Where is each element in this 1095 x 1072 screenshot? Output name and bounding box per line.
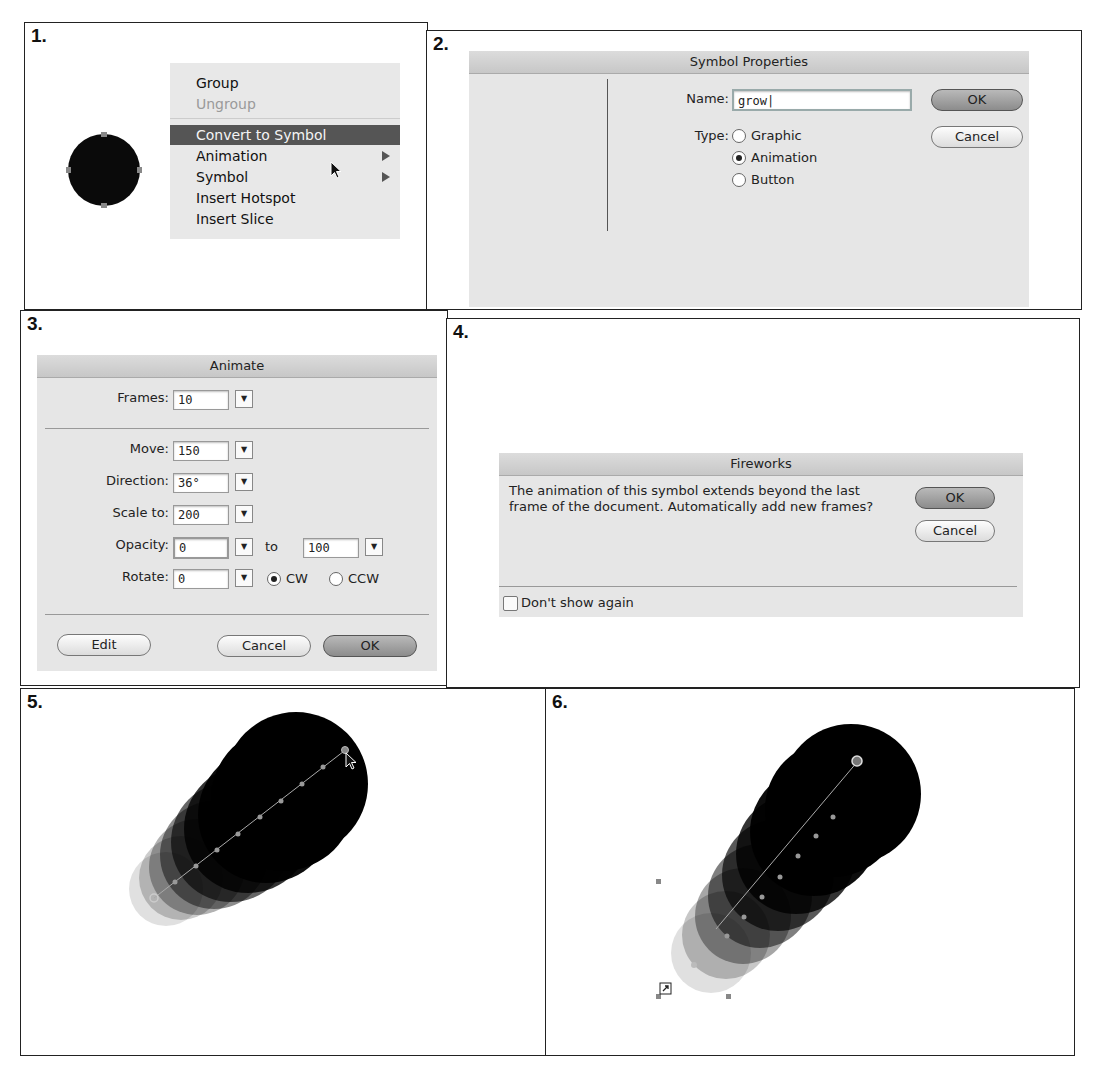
dialog-title: Fireworks: [499, 453, 1023, 476]
menu-item-label: Ungroup: [196, 96, 256, 112]
ok-button[interactable]: OK: [931, 89, 1023, 111]
menu-divider: [170, 118, 400, 119]
scale-to-label: Scale to:: [77, 505, 169, 520]
move-label: Move:: [77, 441, 169, 456]
frames-input[interactable]: 10: [173, 390, 229, 410]
menu-item-group[interactable]: Group: [170, 73, 400, 93]
menu-item-label: Symbol: [196, 169, 248, 185]
frames-dropdown-button[interactable]: ▼: [235, 390, 253, 408]
edit-button[interactable]: Edit: [57, 634, 151, 656]
step-1-panel: 1. Group Ungroup Convert to Symbol Anima…: [24, 22, 428, 310]
submenu-arrow-icon: [382, 172, 390, 182]
context-menu: Group Ungroup Convert to Symbol Animatio…: [170, 63, 400, 239]
step-4-panel: 4. Fireworks The animation of this symbo…: [446, 318, 1080, 688]
step-number: 4.: [453, 321, 469, 343]
type-animation-label: Animation: [751, 150, 817, 165]
direction-label: Direction:: [77, 473, 169, 488]
animation-onion-skin-canvas[interactable]: [546, 689, 1075, 1056]
step-number: 2.: [433, 33, 449, 55]
step-2-panel: 2. Symbol Properties Name: grow| OK Canc…: [426, 30, 1082, 310]
step-3-panel: 3. Animate Frames: 10 ▼ Move: 150 ▼ Dire…: [20, 310, 448, 686]
menu-item-label: Animation: [196, 148, 267, 164]
fireworks-alert-dialog: Fireworks The animation of this symbol e…: [499, 453, 1023, 617]
dialog-title: Animate: [37, 355, 437, 378]
type-label: Type:: [659, 128, 729, 143]
menu-item-ungroup: Ungroup: [170, 94, 400, 114]
input-value: 100: [308, 541, 330, 555]
menu-item-label: Insert Hotspot: [196, 190, 295, 206]
ccw-label: CCW: [348, 571, 379, 586]
cancel-button[interactable]: Cancel: [915, 520, 995, 542]
type-graphic-label: Graphic: [751, 128, 802, 143]
scale-to-input[interactable]: 200: [173, 505, 229, 525]
menu-item-label: Convert to Symbol: [196, 127, 326, 143]
step-6-panel: 6.: [545, 688, 1075, 1056]
input-value: 200: [178, 508, 200, 522]
dont-show-again-checkbox[interactable]: [503, 596, 518, 611]
animate-dialog: Animate Frames: 10 ▼ Move: 150 ▼ Directi…: [37, 355, 437, 671]
mouse-cursor-icon: [345, 752, 359, 772]
cw-label: CW: [286, 571, 308, 586]
submenu-arrow-icon: [382, 151, 390, 161]
cancel-button[interactable]: Cancel: [217, 635, 311, 657]
direction-dropdown-button[interactable]: ▼: [235, 473, 253, 491]
divider: [45, 614, 429, 615]
move-dropdown-button[interactable]: ▼: [235, 441, 253, 459]
cancel-button[interactable]: Cancel: [931, 126, 1023, 148]
symbol-properties-dialog: Symbol Properties Name: grow| OK Cancel …: [469, 51, 1029, 307]
input-value: 10: [178, 393, 192, 407]
divider: [45, 428, 429, 429]
rotate-label: Rotate:: [77, 569, 169, 584]
menu-item-label: Group: [196, 75, 239, 91]
divider: [499, 586, 1017, 587]
mouse-cursor-icon: [330, 161, 344, 181]
preview-divider: [607, 79, 608, 231]
step-number: 3.: [27, 313, 43, 335]
menu-item-label: Insert Slice: [196, 211, 274, 227]
alert-message: The animation of this symbol extends bey…: [509, 483, 889, 515]
ok-button[interactable]: OK: [915, 487, 995, 509]
type-button-radio[interactable]: [732, 173, 746, 187]
step-5-panel: 5.: [20, 688, 546, 1056]
menu-item-insert-hotspot[interactable]: Insert Hotspot: [170, 188, 400, 208]
opacity-from-input[interactable]: 0: [173, 537, 229, 559]
input-value: 150: [178, 444, 200, 458]
dialog-title: Symbol Properties: [469, 51, 1029, 74]
type-button-label: Button: [751, 172, 795, 187]
input-value: grow: [738, 94, 767, 108]
menu-item-insert-slice[interactable]: Insert Slice: [170, 209, 400, 229]
name-label: Name:: [659, 91, 729, 106]
rotate-input[interactable]: 0: [173, 569, 229, 589]
menu-item-animation[interactable]: Animation: [170, 146, 400, 166]
input-value: 0: [178, 572, 185, 586]
opacity-from-dropdown-button[interactable]: ▼: [235, 538, 253, 556]
circle-shape[interactable]: [65, 131, 145, 211]
opacity-to-dropdown-button[interactable]: ▼: [365, 538, 383, 556]
opacity-to-input[interactable]: 100: [303, 538, 359, 558]
ok-button[interactable]: OK: [323, 635, 417, 657]
menu-item-convert-to-symbol[interactable]: Convert to Symbol: [170, 125, 400, 145]
opacity-label: Opacity:: [77, 537, 169, 552]
opacity-to-label: to: [265, 539, 278, 554]
animation-onion-skin-canvas[interactable]: [21, 689, 546, 1056]
type-graphic-radio[interactable]: [732, 129, 746, 143]
cw-radio[interactable]: [267, 572, 281, 586]
symbol-name-input[interactable]: grow|: [732, 89, 912, 111]
menu-item-symbol[interactable]: Symbol: [170, 167, 400, 187]
input-value: 0: [179, 541, 186, 555]
input-value: 36°: [178, 476, 200, 490]
type-animation-radio[interactable]: [732, 151, 746, 165]
direction-input[interactable]: 36°: [173, 473, 229, 493]
dont-show-again-label: Don't show again: [521, 595, 634, 610]
step-number: 1.: [31, 25, 47, 47]
ccw-radio[interactable]: [329, 572, 343, 586]
move-input[interactable]: 150: [173, 441, 229, 461]
frames-label: Frames:: [77, 390, 169, 405]
rotate-dropdown-button[interactable]: ▼: [235, 569, 253, 587]
scale-to-dropdown-button[interactable]: ▼: [235, 505, 253, 523]
